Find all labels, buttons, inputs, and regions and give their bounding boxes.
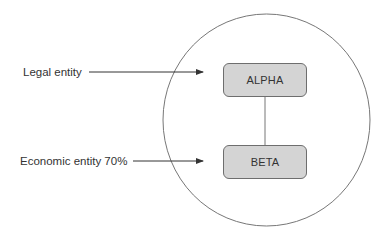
diagram-canvas [0, 0, 387, 239]
alpha-node: ALPHA [223, 63, 307, 97]
alpha-node-label: ALPHA [246, 74, 283, 86]
beta-node: BETA [223, 145, 307, 179]
beta-node-label: BETA [251, 156, 280, 168]
entity-boundary-circle [163, 14, 370, 226]
economic-entity-label: Economic entity 70% [20, 154, 127, 168]
legal-entity-label: Legal entity [23, 65, 82, 79]
